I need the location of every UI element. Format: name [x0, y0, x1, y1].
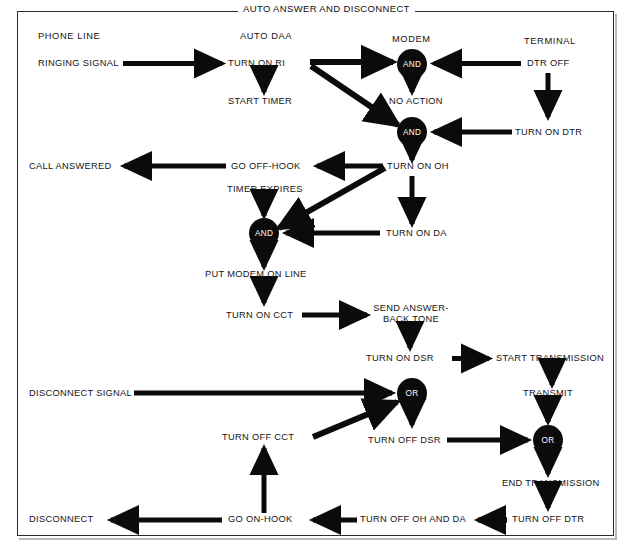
- node-start-transmission[interactable]: START TRANSMISSION: [496, 353, 604, 364]
- node-disconnect-signal[interactable]: DISCONNECT SIGNAL: [29, 388, 132, 399]
- node-disconnect[interactable]: DISCONNECT: [29, 514, 93, 525]
- node-turn-on-oh[interactable]: TURN ON OH: [387, 161, 449, 172]
- diagram-frame: [17, 11, 614, 536]
- node-turn-off-dsr[interactable]: TURN OFF DSR: [368, 435, 441, 446]
- column-header-terminal: TERMINAL: [524, 36, 576, 46]
- diagram-page: AUTO ANSWER AND DISCONNECT: [0, 0, 625, 551]
- node-go-on-hook[interactable]: GO ON-HOOK: [228, 514, 292, 525]
- gate-or-2[interactable]: OR: [533, 425, 563, 455]
- node-timer-expires[interactable]: TIMER EXPIRES: [227, 184, 303, 195]
- node-transmit[interactable]: TRANSMIT: [523, 388, 573, 399]
- gate-or-1[interactable]: OR: [397, 378, 427, 408]
- node-turn-off-dtr[interactable]: TURN OFF DTR: [512, 514, 584, 525]
- column-header-modem: MODEM: [392, 34, 431, 44]
- node-end-transmission[interactable]: END TRANSMISSION: [502, 478, 600, 489]
- node-go-off-hook[interactable]: GO OFF-HOOK: [231, 161, 300, 172]
- node-ringing-signal[interactable]: RINGING SIGNAL: [38, 58, 119, 69]
- gate-and-1[interactable]: AND: [397, 49, 427, 79]
- column-header-auto-daa: AUTO DAA: [240, 31, 292, 41]
- gate-and-3[interactable]: AND: [249, 218, 279, 248]
- node-turn-on-ri[interactable]: TURN ON RI: [228, 58, 285, 69]
- node-turn-on-cct[interactable]: TURN ON CCT: [226, 310, 293, 321]
- node-no-action[interactable]: NO ACTION: [389, 96, 443, 107]
- diagram-title: AUTO ANSWER AND DISCONNECT: [238, 3, 415, 14]
- node-turn-off-cct[interactable]: TURN OFF CCT: [222, 432, 294, 443]
- node-turn-off-oh-and-da[interactable]: TURN OFF OH AND DA: [360, 514, 466, 525]
- node-start-timer[interactable]: START TIMER: [228, 96, 292, 107]
- node-turn-on-da[interactable]: TURN ON DA: [386, 228, 447, 239]
- gate-and-2[interactable]: AND: [397, 117, 427, 147]
- node-dtr-off[interactable]: DTR OFF: [527, 58, 569, 69]
- node-turn-on-dsr[interactable]: TURN ON DSR: [366, 353, 434, 364]
- node-turn-on-dtr[interactable]: TURN ON DTR: [515, 127, 582, 138]
- node-put-modem-on-line[interactable]: PUT MODEM ON LINE: [205, 269, 307, 280]
- column-header-phone-line: PHONE LINE: [38, 31, 100, 41]
- node-send-answer-back-tone[interactable]: SEND ANSWER- BACK TONE: [371, 303, 451, 325]
- node-call-answered[interactable]: CALL ANSWERED: [29, 161, 112, 172]
